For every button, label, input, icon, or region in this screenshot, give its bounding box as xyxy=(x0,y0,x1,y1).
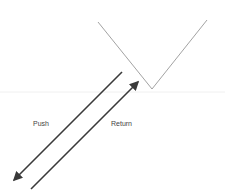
diagram-svg xyxy=(0,0,225,194)
return-label: Return xyxy=(111,120,132,127)
diagram-canvas: Push Return xyxy=(0,0,225,194)
push-arrow xyxy=(14,72,122,180)
push-label: Push xyxy=(33,120,49,127)
return-arrow xyxy=(31,82,138,189)
